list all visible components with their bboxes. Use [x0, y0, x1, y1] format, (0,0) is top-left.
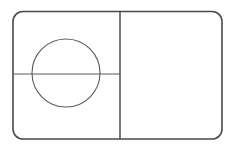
diagram-canvas	[0, 0, 234, 152]
canvas-background	[0, 0, 234, 152]
diagram-svg	[0, 0, 234, 152]
